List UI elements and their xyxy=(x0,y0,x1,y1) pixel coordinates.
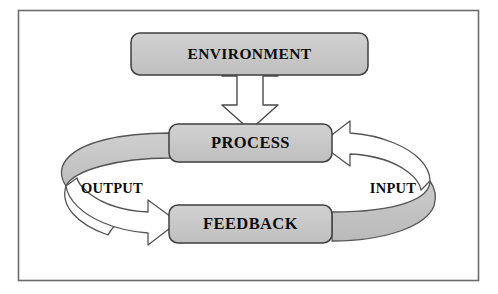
output-label: OUTPUT xyxy=(81,180,143,196)
node-environment[interactable]: ENVIRONMENT xyxy=(131,33,368,75)
node-feedback[interactable]: FEEDBACK xyxy=(169,205,332,243)
node-process[interactable]: PROCESS xyxy=(169,124,332,162)
environment-label: ENVIRONMENT xyxy=(187,45,311,62)
diagram-canvas: OUTPUT INPUT ENVIRONMENT PROCESS FEEDBAC xyxy=(0,0,498,294)
feedback-label: FEEDBACK xyxy=(203,214,298,233)
system-feedback-loop-diagram: OUTPUT INPUT ENVIRONMENT PROCESS FEEDBAC xyxy=(0,0,498,294)
input-label: INPUT xyxy=(370,180,417,196)
process-label: PROCESS xyxy=(211,133,290,152)
